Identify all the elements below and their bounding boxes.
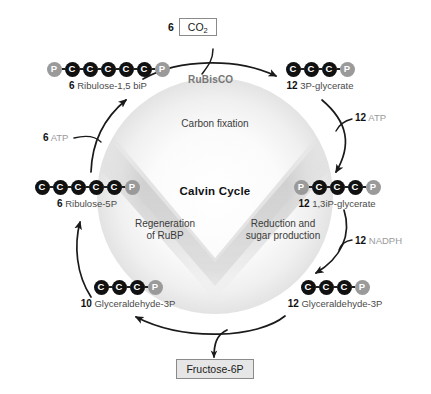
phase-regeneration: Regeneration of RuBP: [110, 218, 220, 241]
molecule-glyceraldehyde-3p-left: CCCP 10 Glyceraldehyde-3P: [38, 278, 218, 309]
molecule-name: Ribulose-5P: [65, 198, 117, 209]
phosphate-node: P: [125, 180, 140, 195]
carbon-node: C: [71, 180, 86, 195]
molecule-count: 12: [288, 298, 299, 309]
phase-reduction: Reduction and sugar production: [224, 218, 342, 241]
molecule-ribulose-1-5-bip: PCCCCCP 6 Ribulose-1,5 biP: [18, 60, 198, 91]
phase-regeneration-line2: of RuBP: [110, 230, 220, 242]
molecule-chain: CCCP: [245, 278, 425, 296]
molecule-chain: CCCCCP: [7, 178, 167, 196]
carbon-node: C: [53, 180, 68, 195]
product-fructose-6p-box: Fructose-6P: [176, 359, 254, 379]
phosphate-node: P: [294, 180, 309, 195]
carbon-node: C: [119, 62, 134, 77]
molecule-label: 12 1,3iP-glycerate: [252, 198, 422, 209]
co2-box: CO2: [179, 18, 217, 36]
carbon-node: C: [130, 280, 145, 295]
carbon-node: C: [337, 280, 352, 295]
phosphate-node: P: [148, 280, 163, 295]
carbon-node: C: [137, 62, 152, 77]
phosphate-node: P: [366, 180, 381, 195]
carbon-node: C: [112, 280, 127, 295]
co2-label: CO: [188, 21, 204, 33]
carbon-node: C: [89, 180, 104, 195]
molecule-name: Glyceraldehyde-3P: [301, 298, 382, 309]
phosphate-node: P: [355, 280, 370, 295]
cofactor-atp-right: 12 ATP: [355, 112, 386, 124]
arrow-regeneration-bottom: [136, 316, 285, 334]
molecule-count: 6: [57, 198, 63, 209]
cofactor-atp-right-label: ATP: [368, 112, 386, 123]
co2-count: 6: [168, 21, 174, 33]
cofactor-nadph-right: 12 NADPH: [355, 235, 402, 247]
molecule-label: 10 Glyceraldehyde-3P: [38, 298, 218, 309]
arrow-co2-input: [202, 49, 213, 74]
molecule-chain: PCCCP: [252, 178, 422, 196]
molecule-name: Glyceraldehyde-3P: [94, 298, 175, 309]
calvin-cycle-diagram: 6 CO2 RuBisCO 6 ATP 12 ATP 12 NADPH Carb…: [0, 0, 431, 394]
molecule-1-3ip-glycerate: PCCCP 12 1,3iP-glycerate: [252, 178, 422, 209]
carbon-node: C: [322, 62, 337, 77]
phase-carbon-fixation: Carbon fixation: [135, 118, 295, 130]
molecule-name: 3P-glycerate: [300, 80, 353, 91]
carbon-node: C: [83, 62, 98, 77]
carbon-node: C: [35, 180, 50, 195]
molecule-count: 10: [81, 298, 92, 309]
cofactor-nadph-right-label: NADPH: [369, 235, 402, 246]
carbon-node: C: [94, 280, 109, 295]
molecule-count: 6: [69, 80, 75, 91]
molecule-label: 12 3P-glycerate: [240, 80, 400, 91]
carbon-node: C: [107, 180, 122, 195]
product-fructose-6p-label: Fructose-6P: [186, 363, 243, 375]
co2-input: 6 CO2: [168, 18, 217, 36]
phosphate-node: P: [155, 62, 170, 77]
carbon-node: C: [330, 180, 345, 195]
molecule-name: 1,3iP-glycerate: [312, 198, 375, 209]
molecule-label: 6 Ribulose-5P: [7, 198, 167, 209]
cofactor-nadph-right-count: 12: [355, 235, 366, 246]
carbon-node: C: [101, 62, 116, 77]
carbon-node: C: [304, 62, 319, 77]
molecule-count: 12: [286, 80, 297, 91]
molecule-label: 6 Ribulose-1,5 biP: [18, 80, 198, 91]
phase-reduction-line1: Reduction and: [224, 218, 342, 230]
molecule-chain: CCCP: [38, 278, 218, 296]
molecule-chain: CCCP: [240, 60, 400, 78]
cofactor-atp-left-label: ATP: [51, 132, 69, 143]
molecule-glyceraldehyde-3p-right: CCCP 12 Glyceraldehyde-3P: [245, 278, 425, 309]
carbon-node: C: [348, 180, 363, 195]
phase-reduction-line2: sugar production: [224, 230, 342, 242]
molecule-ribulose-5p: CCCCCP 6 Ribulose-5P: [7, 178, 167, 209]
carbon-node: C: [319, 280, 334, 295]
molecule-3p-glycerate: CCCP 12 3P-glycerate: [240, 60, 400, 91]
cofactor-atp-right-count: 12: [355, 112, 366, 123]
cofactor-atp-left-count: 6: [43, 132, 49, 143]
carbon-node: C: [65, 62, 80, 77]
phosphate-node: P: [47, 62, 62, 77]
molecule-name: Ribulose-1,5 biP: [77, 80, 147, 91]
carbon-node: C: [286, 62, 301, 77]
cofactor-atp-left: 6 ATP: [43, 132, 68, 144]
molecule-label: 12 Glyceraldehyde-3P: [245, 298, 425, 309]
co2-subscript: 2: [204, 26, 208, 35]
carbon-node: C: [312, 180, 327, 195]
phosphate-node: P: [340, 62, 355, 77]
molecule-chain: PCCCCCP: [18, 60, 198, 78]
molecule-count: 12: [298, 198, 309, 209]
carbon-node: C: [301, 280, 316, 295]
phase-regeneration-line1: Regeneration: [110, 218, 220, 230]
